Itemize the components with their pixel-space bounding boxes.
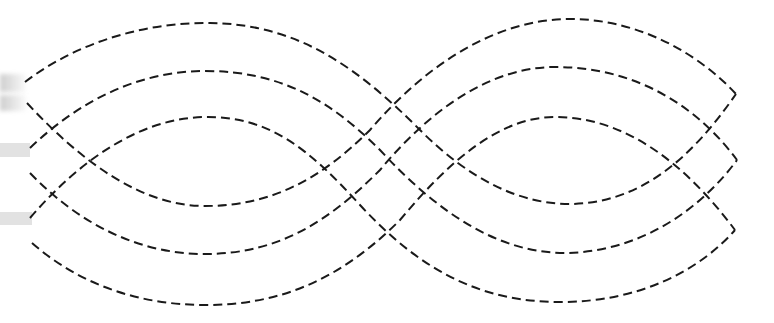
strand-top-inner-to-bottom-outer (30, 117, 735, 302)
strand-bottom-middle-to-top-middle (30, 67, 737, 254)
strand-top-outer-to-bottom-inner (25, 23, 736, 204)
strand-bottom-inner-to-top-outer (27, 19, 736, 206)
interlaced-dashed-figure (0, 0, 774, 323)
strand-bottom-outer-to-top-inner (32, 117, 735, 305)
strand-top-middle-to-bottom-middle (30, 71, 737, 253)
